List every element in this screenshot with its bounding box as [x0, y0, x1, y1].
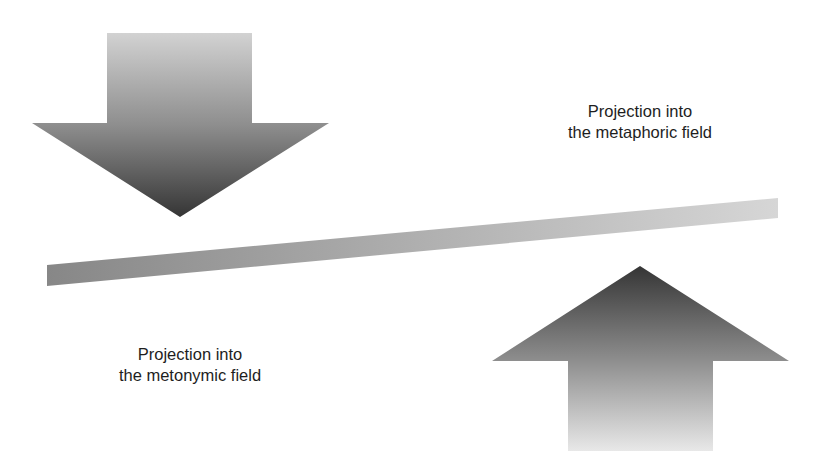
label-metonymic-line1: Projection into — [70, 344, 310, 365]
down-arrow-icon — [32, 33, 329, 217]
label-metaphoric-field: Projection into the metaphoric field — [520, 101, 760, 143]
label-metaphoric-line2: the metaphoric field — [520, 122, 760, 143]
diagram-canvas — [0, 0, 825, 469]
label-metonymic-field: Projection into the metonymic field — [70, 344, 310, 386]
label-metonymic-line2: the metonymic field — [70, 365, 310, 386]
diagonal-axis-bar — [47, 198, 778, 286]
label-metaphoric-line1: Projection into — [520, 101, 760, 122]
up-arrow-icon — [492, 266, 789, 451]
